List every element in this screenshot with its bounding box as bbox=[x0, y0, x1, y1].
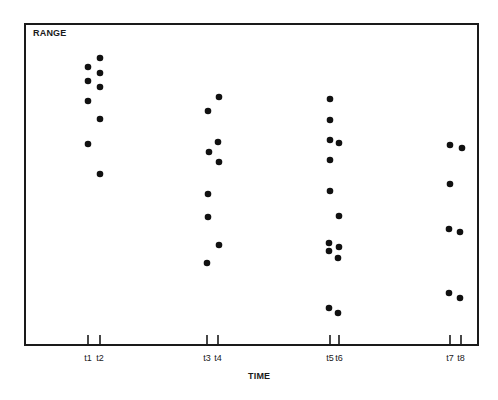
tick-label-t6: t6 bbox=[335, 353, 343, 363]
data-point-t2 bbox=[97, 171, 104, 178]
x-axis-tick-labels: t1t2t3t4t5t6t7t8 bbox=[84, 353, 465, 363]
tick-label-t4: t4 bbox=[214, 353, 222, 363]
data-point-t1 bbox=[85, 98, 92, 105]
data-point-t3 bbox=[205, 191, 212, 198]
data-point-t8 bbox=[457, 295, 464, 302]
data-point-t7 bbox=[447, 181, 454, 188]
data-point-t3 bbox=[205, 108, 212, 115]
data-point-t2 bbox=[97, 84, 104, 91]
tick-label-t5: t5 bbox=[326, 353, 334, 363]
data-points bbox=[85, 55, 466, 317]
data-point-t5 bbox=[327, 96, 334, 103]
data-point-t5 bbox=[326, 305, 333, 312]
tick-label-t1: t1 bbox=[84, 353, 92, 363]
data-point-t3 bbox=[205, 214, 212, 221]
data-point-t4 bbox=[216, 159, 223, 166]
data-point-t2 bbox=[97, 70, 104, 77]
data-point-t8 bbox=[459, 145, 466, 152]
data-point-t2 bbox=[97, 55, 104, 62]
data-point-t2 bbox=[97, 116, 104, 123]
data-point-t1 bbox=[85, 141, 92, 148]
tick-label-t3: t3 bbox=[203, 353, 211, 363]
data-point-t4 bbox=[215, 139, 222, 146]
data-point-t6 bbox=[336, 140, 343, 147]
data-point-t6 bbox=[335, 310, 342, 317]
data-point-t7 bbox=[447, 142, 454, 149]
data-point-t6 bbox=[335, 255, 342, 262]
tick-label-t2: t2 bbox=[96, 353, 104, 363]
data-point-t5 bbox=[326, 240, 333, 247]
data-point-t6 bbox=[336, 213, 343, 220]
data-point-t7 bbox=[446, 226, 453, 233]
x-axis-ticks bbox=[88, 335, 461, 344]
data-point-t1 bbox=[85, 78, 92, 85]
data-point-t3 bbox=[204, 260, 211, 267]
tick-label-t8: t8 bbox=[457, 353, 465, 363]
scatter-plot: t1t2t3t4t5t6t7t8 bbox=[0, 0, 498, 400]
data-point-t5 bbox=[327, 117, 334, 124]
data-point-t7 bbox=[446, 290, 453, 297]
data-point-t1 bbox=[85, 64, 92, 71]
tick-label-t7: t7 bbox=[446, 353, 454, 363]
data-point-t5 bbox=[327, 137, 334, 144]
data-point-t4 bbox=[216, 94, 223, 101]
data-point-t3 bbox=[206, 149, 213, 156]
data-point-t5 bbox=[327, 188, 334, 195]
data-point-t8 bbox=[457, 229, 464, 236]
data-point-t5 bbox=[326, 248, 333, 255]
data-point-t6 bbox=[336, 244, 343, 251]
data-point-t4 bbox=[216, 242, 223, 249]
data-point-t5 bbox=[327, 157, 334, 164]
